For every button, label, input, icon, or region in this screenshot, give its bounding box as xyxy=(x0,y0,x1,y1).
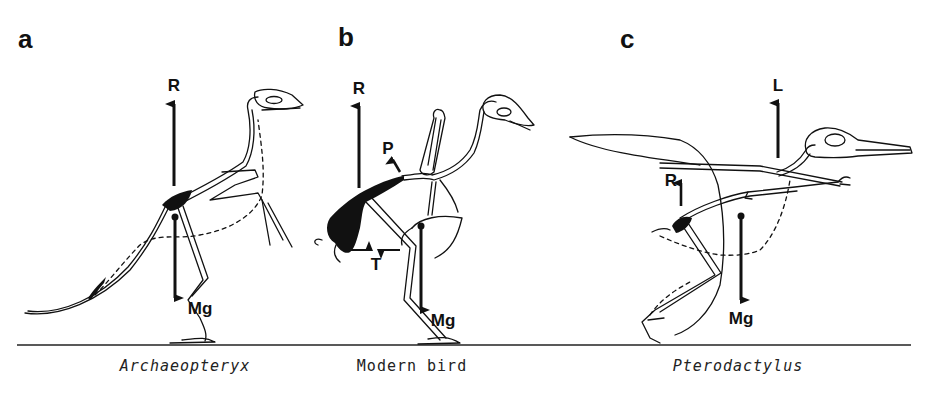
force-label-t-b: T xyxy=(371,256,381,273)
force-label-p-b: P xyxy=(382,140,393,157)
force-label-mg-b: Mg xyxy=(431,312,456,329)
caption-pterodactylus: Pterodactylus xyxy=(673,357,803,375)
panel-label-c: c xyxy=(620,26,634,52)
tail-mass-b xyxy=(327,176,404,253)
force-label-mg-c: Mg xyxy=(729,310,754,327)
force-label-r-c: R xyxy=(665,172,677,189)
force-label-r-a: R xyxy=(168,77,180,94)
archaeopteryx-skeleton xyxy=(25,89,303,343)
panel-label-b: b xyxy=(338,24,354,50)
force-label-mg-a: Mg xyxy=(188,300,213,317)
force-label-l-c: L xyxy=(773,77,783,94)
panel-label-a: a xyxy=(18,26,32,52)
force-arrow-p-b xyxy=(393,160,400,172)
force-label-r-b: R xyxy=(353,80,365,97)
caption-archaeopteryx: Archaeopteryx xyxy=(120,357,250,375)
caption-modern-bird: Modern bird xyxy=(357,357,467,375)
diagram-canvas xyxy=(0,0,933,394)
hip-mass-a xyxy=(162,190,192,211)
